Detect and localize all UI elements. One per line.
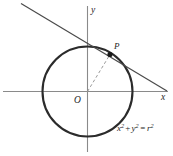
tangent-line: [21, 4, 167, 92]
point-p-marker: [107, 52, 112, 57]
radius-segment-dashed: [88, 55, 111, 92]
figure-root: y x O P x2+y2=r2: [0, 0, 173, 156]
geometry-diagram: [0, 0, 173, 156]
